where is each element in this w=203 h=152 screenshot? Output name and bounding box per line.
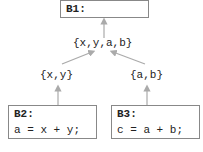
block-b3-label: B3: xyxy=(117,108,137,120)
block-b2-label: B2: xyxy=(14,108,34,120)
set-right: {a,b} xyxy=(130,69,163,81)
arrow-left-to-merged xyxy=(62,52,92,64)
set-merged: {x,y,a,b} xyxy=(73,37,132,49)
arrow-right-to-merged xyxy=(113,52,145,64)
block-b2-code: a = x + y; xyxy=(14,124,80,136)
block-b3: B3: c = a + b; xyxy=(111,105,200,139)
set-left: {x,y} xyxy=(40,69,73,81)
block-b1: B1: xyxy=(60,0,149,18)
block-b3-code: c = a + b; xyxy=(117,124,183,136)
block-b1-label: B1: xyxy=(66,3,86,15)
block-b2: B2: a = x + y; xyxy=(8,105,97,139)
